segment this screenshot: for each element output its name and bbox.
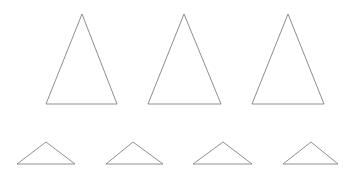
triangle-outline xyxy=(252,14,324,104)
triangle-outline xyxy=(17,142,75,164)
triangle-outline xyxy=(46,14,117,104)
triangle-outline xyxy=(193,142,252,164)
triangle-outline xyxy=(283,142,338,164)
flat-triangles-row xyxy=(17,142,338,164)
diagram-canvas xyxy=(0,0,353,175)
triangle-outline xyxy=(148,14,221,104)
tall-triangles-row xyxy=(46,14,324,104)
triangles-diagram xyxy=(0,0,353,175)
triangle-outline xyxy=(106,142,163,164)
